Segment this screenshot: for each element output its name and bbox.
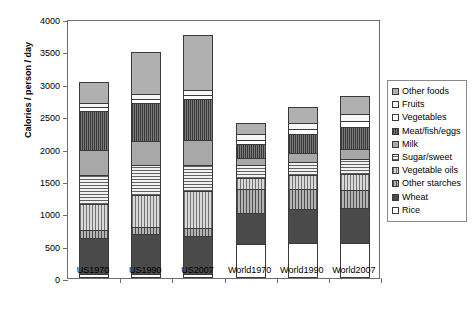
bar-segment[interactable] <box>236 144 266 158</box>
bar-segment[interactable] <box>79 204 109 230</box>
bar-segment[interactable] <box>340 190 370 208</box>
chart-legend: Other foodsFruitsVegetablesMeat/fish/egg… <box>387 80 467 222</box>
bar-segment[interactable] <box>340 127 370 149</box>
bar-segment[interactable] <box>340 149 370 159</box>
bar-segment[interactable] <box>79 111 109 150</box>
bar-slot <box>120 21 172 278</box>
legend-item[interactable]: Milk <box>392 138 461 151</box>
bar-segment[interactable] <box>236 123 266 134</box>
bar-segment[interactable] <box>183 99 213 140</box>
legend-item-label: Other starches <box>402 179 461 188</box>
bar-segment[interactable] <box>183 35 213 90</box>
bar-segment[interactable] <box>183 140 213 165</box>
stacked-bar[interactable] <box>79 82 109 278</box>
legend-item[interactable]: Wheat <box>392 191 461 204</box>
legend-swatch-icon <box>392 101 399 108</box>
y-axis-tick <box>63 53 68 54</box>
y-axis-tick-label: 500 <box>45 243 60 253</box>
stacked-bar[interactable] <box>288 107 318 279</box>
bar-slot <box>172 21 224 278</box>
bar-segment[interactable] <box>236 178 266 190</box>
y-axis-tick <box>63 248 68 249</box>
legend-item[interactable]: Meat/fish/eggs <box>392 125 461 138</box>
legend-swatch-icon <box>392 128 399 135</box>
y-axis-tick-label: 3500 <box>40 48 60 58</box>
bar-segment[interactable] <box>131 227 161 234</box>
bar-segment[interactable] <box>288 153 318 162</box>
legend-item[interactable]: Other starches <box>392 177 461 190</box>
bar-segment[interactable] <box>340 174 370 190</box>
bar-slot <box>225 21 277 278</box>
x-axis-tick <box>172 278 173 283</box>
x-axis-tick-label: US1970 <box>77 265 110 275</box>
legend-item-label: Rice <box>402 206 420 215</box>
bar-segment[interactable] <box>288 134 318 153</box>
legend-item[interactable]: Vegetables <box>392 111 461 124</box>
plot-inner <box>68 21 379 278</box>
legend-swatch-icon <box>392 194 399 201</box>
y-axis-tick-label: 3000 <box>40 81 60 91</box>
legend-item[interactable]: Sugar/sweet <box>392 151 461 164</box>
bar-segment[interactable] <box>340 96 370 114</box>
bar-segment[interactable] <box>236 213 266 245</box>
bar-segment[interactable] <box>79 230 109 238</box>
legend-swatch-icon <box>392 167 399 174</box>
x-axis-tick-label: US2007 <box>181 265 214 275</box>
legend-item-label: Milk <box>402 140 418 149</box>
stacked-bar-chart: Calories / person / day 0500100015002000… <box>0 0 475 313</box>
bar-segment[interactable] <box>340 159 370 174</box>
bar-segment[interactable] <box>236 165 266 177</box>
bar-segment[interactable] <box>183 165 213 192</box>
bar-segment[interactable] <box>131 165 161 195</box>
legend-item[interactable]: Vegetable oils <box>392 164 461 177</box>
legend-item[interactable]: Fruits <box>392 98 461 111</box>
bar-segment[interactable] <box>288 175 318 189</box>
y-axis-tick <box>63 215 68 216</box>
bar-segment[interactable] <box>131 141 161 166</box>
x-axis-tick-label: World1970 <box>228 265 271 275</box>
bar-segment[interactable] <box>131 195 161 226</box>
x-axis-tick-label: US1990 <box>129 265 162 275</box>
bar-segment[interactable] <box>79 175 109 204</box>
legend-item[interactable]: Other foods <box>392 85 461 98</box>
y-axis-tick <box>63 183 68 184</box>
y-axis-title: Calories / person / day <box>23 10 33 170</box>
x-axis-tick <box>277 278 278 283</box>
legend-item-label: Sugar/sweet <box>402 153 452 162</box>
bar-segment[interactable] <box>288 189 318 208</box>
bar-segment[interactable] <box>288 209 318 243</box>
bar-slot <box>277 21 329 278</box>
legend-item-label: Fruits <box>402 100 425 109</box>
x-axis-tick <box>225 278 226 283</box>
stacked-bar[interactable] <box>183 35 213 278</box>
legend-item[interactable]: Rice <box>392 204 461 217</box>
stacked-bar[interactable] <box>236 123 266 278</box>
legend-swatch-icon <box>392 114 399 121</box>
stacked-bar[interactable] <box>131 52 161 278</box>
bar-segment[interactable] <box>236 189 266 212</box>
stacked-bar[interactable] <box>340 96 370 278</box>
legend-swatch-icon <box>392 154 399 161</box>
bar-segment[interactable] <box>236 158 266 166</box>
bar-segment[interactable] <box>340 208 370 243</box>
legend-item-label: Wheat <box>402 193 428 202</box>
bar-segment[interactable] <box>288 162 318 176</box>
x-axis-tick <box>329 278 330 283</box>
y-axis-tick <box>63 280 68 281</box>
bar-segment[interactable] <box>131 103 161 141</box>
y-axis-tick-label: 2000 <box>40 146 60 156</box>
legend-swatch-icon <box>392 207 399 214</box>
y-axis-tick <box>63 21 68 22</box>
bar-segment[interactable] <box>183 228 213 236</box>
legend-item-label: Vegetables <box>402 113 447 122</box>
y-axis-tick-label: 2500 <box>40 113 60 123</box>
legend-swatch-icon <box>392 141 399 148</box>
y-axis-tick-label: 1000 <box>40 210 60 220</box>
bar-segment[interactable] <box>79 150 109 175</box>
y-axis-tick-label: 4000 <box>40 16 60 26</box>
y-axis-tick <box>63 86 68 87</box>
bar-segment[interactable] <box>131 52 161 94</box>
bar-segment[interactable] <box>79 82 109 103</box>
bar-segment[interactable] <box>183 191 213 228</box>
bar-segment[interactable] <box>288 107 318 124</box>
